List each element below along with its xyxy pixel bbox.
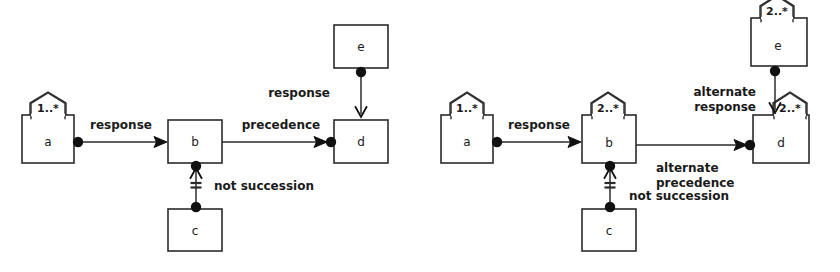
node-b-right[interactable]: 2..* b: [582, 92, 636, 163]
node-label-d-left: d: [357, 135, 365, 149]
target-dot-b-d-left: [326, 137, 336, 147]
node-label-b-left: b: [191, 135, 199, 149]
constraint-graph-svg: 1..* a b c d e: [0, 0, 840, 272]
edge-label-a-b-left: response: [90, 118, 152, 132]
node-a-right[interactable]: 1..* a: [441, 92, 493, 163]
node-label-a-right: a: [463, 135, 470, 149]
cardinality-tag-label-e-right: 2..*: [766, 5, 788, 18]
cardinality-tag-label-a-right: 1..*: [456, 102, 478, 115]
edge-label-c-b-right: not succession: [629, 189, 729, 203]
source-dot-a-b-right: [492, 137, 502, 147]
source-dot-e-d-right: [770, 66, 780, 76]
node-c-right[interactable]: c: [582, 209, 636, 251]
node-e-left[interactable]: e: [334, 25, 388, 68]
node-label-c-left: c: [192, 224, 199, 238]
source-dot-a-b-left: [73, 137, 83, 147]
source-dot-c-b-right: [605, 202, 615, 212]
edge-label-c-b-left: not succession: [214, 179, 314, 193]
node-a-left[interactable]: 1..* a: [22, 92, 74, 163]
diagram-right: 1..* a 2..* b c: [441, 0, 809, 251]
edge-label-b-d-right-line2: precedence: [656, 176, 734, 190]
node-label-a-left: a: [44, 135, 51, 149]
edge-response-e-d-left[interactable]: response: [268, 67, 366, 117]
cardinality-tag-label-d-right: 2..*: [779, 102, 801, 115]
edge-not-succession-c-b-left[interactable]: not succession: [191, 161, 314, 212]
cardinality-tag-label-a-left: 1..*: [37, 102, 59, 115]
diagram-left: 1..* a b c d e: [22, 25, 388, 251]
edge-response-a-b-right[interactable]: response: [492, 118, 581, 148]
edge-label-e-d-right-line1: alternate: [693, 85, 756, 99]
edge-label-b-d-right-line1: alternate: [656, 161, 719, 175]
node-label-e-left: e: [357, 40, 364, 54]
edge-label-e-d-right-line2: response: [694, 100, 756, 114]
target-dot-b-d-right: [745, 140, 755, 150]
edge-label-a-b-right: response: [508, 118, 570, 132]
edge-response-a-b-left[interactable]: response: [73, 118, 167, 148]
node-b-left[interactable]: b: [168, 120, 222, 163]
node-label-d-right: d: [777, 136, 785, 150]
edge-label-e-d-left: response: [268, 86, 330, 100]
edge-precedence-b-d-left[interactable]: precedence: [222, 118, 336, 148]
node-e-right[interactable]: 2..* e: [751, 0, 807, 66]
node-label-e-right: e: [774, 39, 781, 53]
edge-alternate-precedence-b-d-right[interactable]: alternate precedence: [636, 140, 755, 191]
source-dot-c-b-left: [191, 202, 201, 212]
diagram-canvas: 1..* a b c d e: [0, 0, 840, 272]
node-c-left[interactable]: c: [168, 209, 222, 251]
node-label-b-right: b: [605, 136, 613, 150]
source-dot-e-d-left: [356, 67, 366, 77]
edge-label-b-d-left: precedence: [242, 118, 320, 132]
cardinality-tag-label-b-right: 2..*: [597, 102, 619, 115]
node-d-left[interactable]: d: [334, 120, 388, 163]
edge-alternate-response-e-d-right[interactable]: alternate response: [693, 66, 780, 114]
node-label-c-right: c: [606, 224, 613, 238]
